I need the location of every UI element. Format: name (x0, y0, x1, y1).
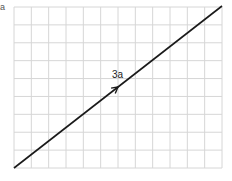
vector-label: 3a (112, 70, 123, 80)
corner-label: a (0, 3, 5, 12)
vector-diagram (0, 0, 232, 181)
